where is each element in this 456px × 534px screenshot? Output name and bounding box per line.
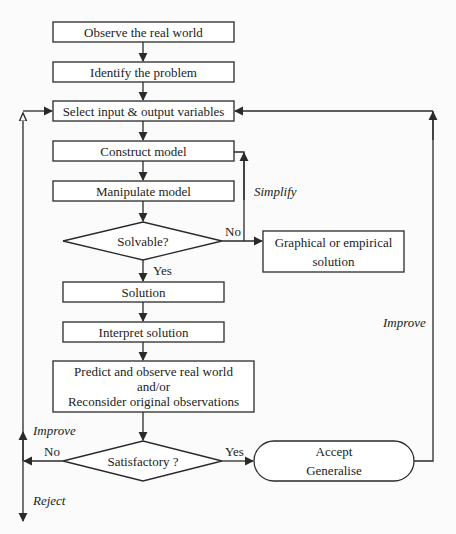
text: Solvable? xyxy=(117,234,168,249)
text: Generalise xyxy=(306,461,362,480)
text: and/or xyxy=(137,379,170,394)
label-solvable: Solvable? xyxy=(63,222,223,260)
text: Select input & output variables xyxy=(63,104,225,119)
text: Identify the problem xyxy=(90,65,197,80)
label-construct: Construct model xyxy=(53,141,234,161)
edge-accept-improve-loop xyxy=(414,111,433,461)
text: Graphical or empirical xyxy=(275,233,393,252)
edge-label-simplify: Simplify xyxy=(254,184,297,199)
label-predict: Predict and observe real worldand/orReco… xyxy=(53,361,254,412)
text: Reconsider original observations xyxy=(68,394,239,409)
text: solution xyxy=(313,252,355,271)
text: Construct model xyxy=(100,144,186,159)
label-identify: Identify the problem xyxy=(53,62,234,82)
label-graphical: Graphical or empiricalsolution xyxy=(263,231,404,272)
edge-label-satisfactory-yes: Yes xyxy=(225,444,244,459)
text: Manipulate model xyxy=(96,184,191,199)
text: Observe the real world xyxy=(84,25,203,40)
edge-label-solvable-no: No xyxy=(225,224,241,239)
edge-label-improve-right: Improve xyxy=(383,315,426,330)
text: Satisfactory ? xyxy=(107,454,178,469)
label-interpret: Interpret solution xyxy=(63,322,224,342)
edge-label-solvable-yes: Yes xyxy=(153,263,172,278)
label-satisfactory: Satisfactory ? xyxy=(63,441,223,481)
text: Predict and observe real world xyxy=(74,364,233,379)
label-manipulate: Manipulate model xyxy=(53,181,234,201)
edge-label-satisfactory-no: No xyxy=(44,444,60,459)
label-solution: Solution xyxy=(63,282,224,302)
edge-label-reject: Reject xyxy=(33,493,65,508)
text: Accept xyxy=(316,442,353,461)
edge-label-improve-left: Improve xyxy=(33,423,76,438)
label-accept: AcceptGeneralise xyxy=(254,441,414,481)
label-observe: Observe the real world xyxy=(53,22,234,42)
text: Solution xyxy=(121,285,165,300)
text: Interpret solution xyxy=(99,325,189,340)
label-select: Select input & output variables xyxy=(53,101,234,121)
